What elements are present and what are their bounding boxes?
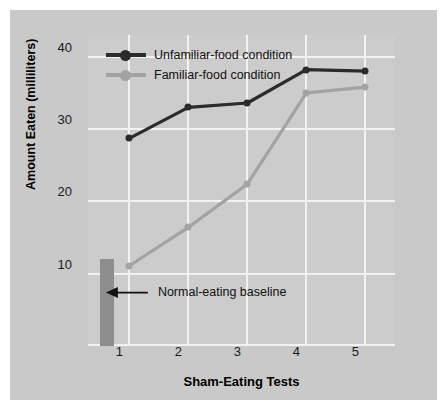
data-point <box>126 135 133 142</box>
chart-legend: Unfamiliar-food condition Familiar-food … <box>106 46 336 86</box>
baseline-annotation-label: Normal-eating baseline <box>158 285 287 299</box>
data-point <box>303 89 310 96</box>
x-tick-label: 1 <box>116 344 123 359</box>
legend-label-familiar: Familiar-food condition <box>154 68 280 82</box>
series-line-familiar <box>129 87 365 266</box>
x-tick-label: 3 <box>234 344 241 359</box>
data-point <box>362 68 369 75</box>
chart-panel: 10203040 12345 Amount Eaten (milliliters… <box>10 10 437 400</box>
legend-item-familiar: Familiar-food condition <box>106 66 336 84</box>
y-axis-title: Amount Eaten (milliliters) <box>24 39 38 190</box>
chart-figure: 10203040 12345 Amount Eaten (milliliters… <box>0 0 447 411</box>
data-point <box>362 84 369 91</box>
y-tick-label: 30 <box>58 112 72 127</box>
legend-marker-icon <box>106 48 146 62</box>
legend-item-unfamiliar: Unfamiliar-food condition <box>106 46 336 64</box>
data-point <box>185 104 192 111</box>
data-point <box>185 224 192 231</box>
y-tick-label: 20 <box>58 184 72 199</box>
x-tick-label: 4 <box>293 344 300 359</box>
y-tick-label: 40 <box>58 39 72 54</box>
x-tick-label: 5 <box>352 344 359 359</box>
x-axis-title: Sham-Eating Tests <box>88 374 395 389</box>
data-point <box>244 180 251 187</box>
y-tick-label: 10 <box>58 256 72 271</box>
data-point <box>244 99 251 106</box>
data-point <box>126 262 133 269</box>
x-tick-label: 2 <box>175 344 182 359</box>
legend-marker-icon <box>106 68 146 82</box>
legend-label-unfamiliar: Unfamiliar-food condition <box>154 48 292 62</box>
